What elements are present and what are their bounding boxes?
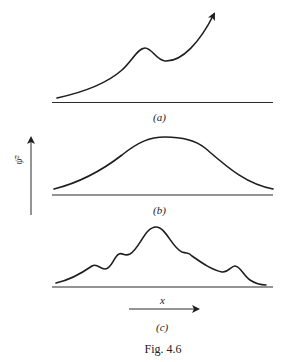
panel-a: (a) bbox=[52, 14, 273, 124]
panel-b-label: (b) bbox=[153, 204, 166, 217]
figure-4-6: (a) (b) ψ̄² x (c) Fig. 4.6 bbox=[0, 0, 288, 362]
panel-c bbox=[52, 227, 273, 287]
x-axis-label: x bbox=[159, 294, 165, 306]
panel-c-curve bbox=[56, 227, 266, 285]
panel-a-label: (a) bbox=[153, 111, 166, 124]
panel-c-label: (c) bbox=[156, 321, 169, 334]
panel-b: (b) bbox=[52, 137, 273, 217]
figure-caption: Fig. 4.6 bbox=[144, 342, 181, 356]
panel-b-curve bbox=[54, 137, 273, 189]
y-axis: ψ̄² bbox=[13, 138, 31, 215]
panel-a-curve bbox=[57, 14, 214, 98]
x-axis: x bbox=[129, 294, 198, 309]
y-axis-label: ψ̄² bbox=[13, 154, 24, 164]
